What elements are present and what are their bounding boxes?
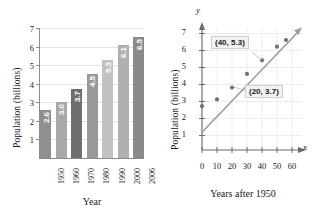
bar-y-tick-4: 4	[20, 80, 34, 90]
line-y-tick-1: 1	[172, 129, 186, 139]
bar-chart-panel: Population (billions) 7 6 5 4 3 2 1	[0, 0, 160, 216]
bar-y-tick-3: 3	[20, 98, 34, 108]
bar-value-label: 6.1	[119, 47, 128, 58]
bar-series: 2.6 3.0 3.7 4.5 5.3 6.1 6.5	[40, 28, 144, 158]
line-chart-x-axis	[202, 147, 306, 153]
bar-chart-x-axis-title: Year	[40, 196, 144, 207]
bar-y-tick-6: 6	[20, 43, 34, 53]
line-x-tick-50: 50	[270, 161, 284, 171]
bar-y-tick-2: 2	[20, 117, 34, 127]
y-axis-letter: y	[196, 5, 200, 15]
line-x-tick-0: 0	[195, 161, 209, 171]
bar-value-label: 3.0	[57, 104, 66, 115]
bar-chart-x-tick-labels: 1950 1960 1970 1980 1990 2000 2006	[40, 160, 144, 190]
bar-chart-plot-area: 2.6 3.0 3.7 4.5 5.3 6.1 6.5	[40, 28, 144, 158]
line-x-tick-60: 60	[285, 161, 299, 171]
data-point	[275, 45, 279, 49]
line-y-tick-7: 7	[172, 27, 186, 37]
figure-container: Population (billions) 7 6 5 4 3 2 1	[0, 0, 320, 216]
bar-chart-x-axis	[39, 158, 144, 159]
table-row[interactable]: 2.6	[40, 110, 51, 158]
data-point	[245, 72, 249, 76]
annotation-point-40-53: (40, 5.3)	[211, 36, 249, 49]
table-row[interactable]: 6.1	[118, 45, 129, 158]
bar-x-tick-1970: 1970	[87, 168, 96, 184]
annotation-point-20-37: (20, 3.7)	[245, 85, 283, 98]
data-point	[230, 85, 234, 89]
line-x-tick-40: 40	[255, 161, 269, 171]
line-chart-plot-area: (40, 5.3) (20, 3.7) y x	[190, 18, 308, 158]
line-x-tick-20: 20	[225, 161, 239, 171]
table-row[interactable]: 3.0	[56, 102, 67, 158]
line-x-tick-10: 10	[210, 161, 224, 171]
x-axis-letter: x	[303, 142, 307, 152]
data-point	[200, 104, 204, 108]
bar-x-tick-1980: 1980	[102, 168, 111, 184]
line-y-tick-2: 2	[172, 112, 186, 122]
bar-value-label: 4.5	[88, 76, 97, 87]
bar-x-tick-1960: 1960	[72, 168, 81, 184]
line-chart-x-axis-title: Years after 1950	[178, 188, 308, 199]
table-row[interactable]: 3.7	[71, 89, 82, 158]
bar-value-label: 3.7	[72, 91, 81, 102]
bar-y-tick-7: 7	[20, 24, 34, 34]
table-row[interactable]: 6.5	[133, 37, 144, 158]
line-y-tick-3: 3	[172, 95, 186, 105]
bar-y-tick-5: 5	[20, 61, 34, 71]
bar-x-tick-1990: 1990	[118, 168, 127, 184]
line-chart-panel: Population (billions) 7 6 5 4 3 2 1	[160, 0, 320, 216]
line-x-tick-30: 30	[240, 161, 254, 171]
table-row[interactable]: 5.3	[102, 60, 113, 158]
line-y-tick-4: 4	[172, 78, 186, 88]
bar-y-tick-1: 1	[20, 135, 34, 145]
line-y-tick-5: 5	[172, 61, 186, 71]
table-row[interactable]: 4.5	[87, 74, 98, 158]
data-point	[215, 97, 219, 101]
line-y-tick-6: 6	[172, 44, 186, 54]
bar-value-label: 6.5	[134, 39, 143, 50]
bar-x-tick-1950: 1950	[57, 168, 66, 184]
bar-value-label: 5.3	[103, 62, 112, 73]
bar-value-label: 2.6	[41, 112, 50, 123]
bar-x-tick-2006: 2006	[148, 168, 157, 184]
data-point	[284, 38, 288, 42]
bar-x-tick-2000: 2000	[133, 168, 142, 184]
